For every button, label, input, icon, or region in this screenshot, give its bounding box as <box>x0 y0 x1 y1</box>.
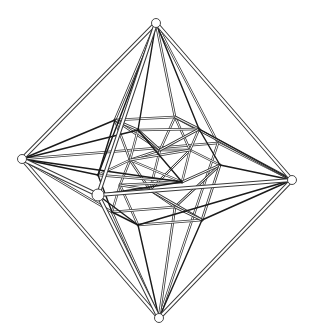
octahedron-wireframe-figure <box>0 0 312 335</box>
vertex-node-front <box>92 189 104 201</box>
edge-mid-core <box>112 207 175 212</box>
edge-dark <box>156 23 199 129</box>
edge-light-core <box>130 130 138 160</box>
outer-tube-core <box>22 159 159 318</box>
outer-tube-core <box>156 23 292 180</box>
inner-lattice-light-edges <box>22 23 292 318</box>
vertex-node-top <box>152 19 161 28</box>
vertex-node-left <box>18 155 27 164</box>
outer-tube-core <box>159 180 292 318</box>
vertex-node-right <box>288 176 297 185</box>
vertex-node-bottom <box>155 314 164 323</box>
